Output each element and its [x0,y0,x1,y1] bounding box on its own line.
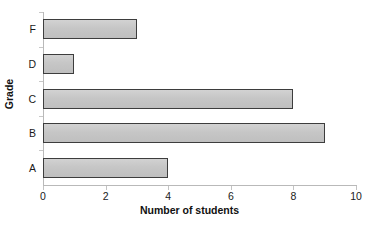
bar-d [43,54,74,74]
y-tick-label-b: B [0,127,36,139]
y-tick-mark [39,81,43,82]
y-tick-label-f: F [0,23,36,35]
y-tick-mark [39,116,43,117]
x-tick-label-2: 2 [86,190,126,202]
x-tick-label-6: 6 [211,190,251,202]
x-axis-line [43,185,357,186]
x-tick-label-10: 10 [336,190,376,202]
y-tick-mark [39,47,43,48]
y-tick-label-a: A [0,162,36,174]
x-tick-label-4: 4 [148,190,188,202]
y-tick-mark [39,150,43,151]
x-tick-label-0: 0 [23,190,63,202]
bar-chart: 0246810 ABCDF Number of students Grade [0,0,379,225]
y-axis-title: Grade [3,64,15,124]
bar-f [43,19,137,39]
bar-b [43,123,325,143]
plot-area [43,12,356,185]
bar-c [43,89,293,109]
y-tick-mark [39,12,43,13]
bar-a [43,158,168,178]
x-tick-label-8: 8 [273,190,313,202]
x-axis-title: Number of students [0,204,379,216]
